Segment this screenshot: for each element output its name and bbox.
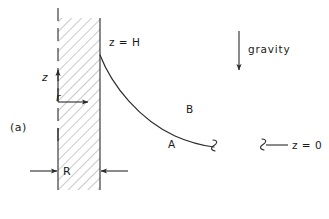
curve-break-squiggle xyxy=(211,140,216,151)
r-axis-label: r xyxy=(56,92,61,103)
z-axis-label: z xyxy=(42,72,48,83)
surface-height-label: z = H xyxy=(109,37,140,48)
datum-label: z = 0 xyxy=(292,140,322,151)
figure-drawing xyxy=(0,0,329,219)
radius-label: R xyxy=(63,166,71,177)
panel-label: (a) xyxy=(10,122,27,133)
figure-panel-a: (a) z = H z r R A B gravity z = 0 xyxy=(0,0,329,219)
region-a-label: A xyxy=(168,139,176,150)
datum-break-squiggle xyxy=(260,139,265,150)
datum-line-group xyxy=(260,139,288,150)
free-surface-curve xyxy=(100,55,214,147)
region-b-label: B xyxy=(186,104,194,115)
gravity-label: gravity xyxy=(248,44,290,55)
